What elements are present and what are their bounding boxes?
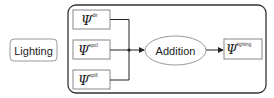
component-spill: Ψ spill xyxy=(73,70,110,89)
superscript: lighting xyxy=(237,42,252,47)
superscript: dir xyxy=(92,12,98,18)
superscript: spill xyxy=(89,72,98,78)
superscript: spcl xyxy=(89,42,98,48)
lighting-label: Lighting xyxy=(14,45,53,57)
addition-node: Addition xyxy=(145,36,206,65)
component-dir: Ψ dir xyxy=(73,10,110,29)
output-lighting: Ψ lighting xyxy=(224,39,262,59)
junction-dot xyxy=(127,48,130,51)
addition-label: Addition xyxy=(156,45,196,57)
lighting-node: Lighting xyxy=(10,39,57,61)
component-spcl: Ψ spcl xyxy=(73,40,110,59)
lighting-diagram: Lighting Ψ dir Ψ spcl Ψ spill Addition Ψ… xyxy=(0,0,274,98)
